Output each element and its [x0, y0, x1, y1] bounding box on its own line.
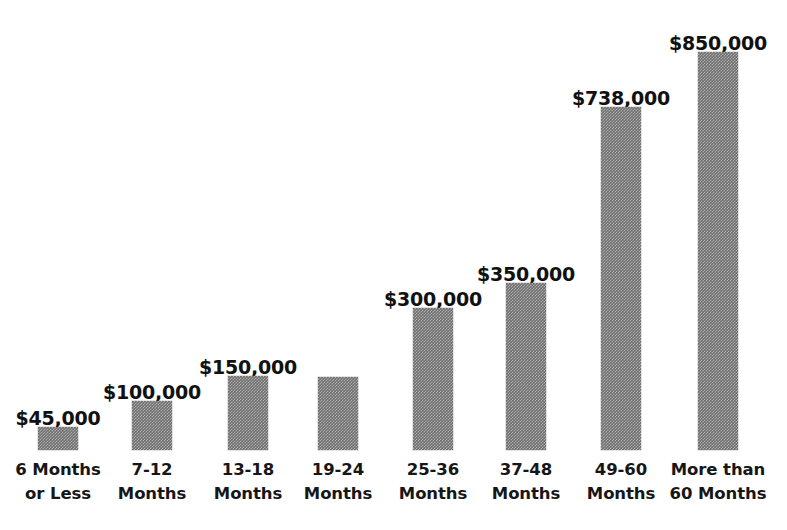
plot-area: $45,000 $100,000 $150,000 $300,000 $350,… [0, 0, 787, 450]
bar-value-label: $738,000 [572, 89, 670, 108]
bar[interactable] [413, 308, 453, 450]
bar[interactable] [228, 376, 268, 450]
bar-value-label: $850,000 [669, 34, 767, 53]
bar-group: $45,000 [10, 0, 106, 450]
bar-value-label: $150,000 [199, 358, 297, 377]
bar[interactable] [601, 107, 641, 450]
bar[interactable] [132, 401, 172, 450]
bar-group: $350,000 [478, 0, 574, 450]
bar-value-label: $100,000 [103, 383, 201, 402]
bar[interactable] [506, 283, 546, 450]
bar-value-label: $45,000 [15, 409, 100, 428]
bar-group: $300,000 [385, 0, 481, 450]
bar-group [290, 0, 386, 450]
bar[interactable] [318, 377, 358, 450]
bar-group: $150,000 [200, 0, 296, 450]
bar-group: $850,000 [670, 0, 766, 450]
bar[interactable] [38, 427, 78, 450]
x-axis-label: More than 60 Months [653, 458, 783, 506]
bar-group: $738,000 [573, 0, 669, 450]
bar-value-label: $300,000 [384, 290, 482, 309]
bar-value-label: $350,000 [477, 265, 575, 284]
bar[interactable] [698, 52, 738, 450]
bar-chart: $45,000 $100,000 $150,000 $300,000 $350,… [0, 0, 787, 530]
bar-group: $100,000 [104, 0, 200, 450]
